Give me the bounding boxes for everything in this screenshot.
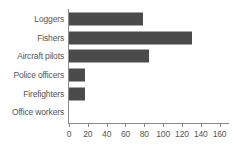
x-tick-mark	[163, 123, 164, 127]
category-label-aircraft-pilots: Aircraft pilots	[17, 51, 64, 61]
category-label-office-workers: Office workers	[12, 107, 64, 117]
bar-row: Firefighters	[0, 84, 234, 103]
x-tick-label: 120	[175, 129, 189, 139]
x-tick-mark	[220, 123, 221, 127]
bar-firefighters	[69, 87, 85, 100]
bar-row: Police officers	[0, 66, 234, 85]
x-tick-label: 20	[83, 129, 92, 139]
bar-aircraft-pilots	[69, 50, 149, 63]
bar-row: Fishers	[0, 29, 234, 48]
x-axis-ticks: 020406080100120140160	[0, 123, 234, 153]
x-tick-mark	[125, 123, 126, 127]
x-tick-mark	[69, 123, 70, 127]
bar-chart: LoggersFishersAircraft pilotsPolice offi…	[0, 0, 234, 160]
x-tick-label: 40	[102, 129, 111, 139]
bar-row: Office workers	[0, 103, 234, 122]
bar-loggers	[69, 13, 143, 26]
x-tick-label: 140	[194, 129, 208, 139]
x-tick-mark	[201, 123, 202, 127]
x-tick-mark	[182, 123, 183, 127]
bar-fishers	[69, 31, 192, 44]
x-tick-mark	[107, 123, 108, 127]
category-label-firefighters: Firefighters	[23, 89, 64, 99]
bar-row: Loggers	[0, 10, 234, 29]
x-tick-mark	[88, 123, 89, 127]
x-tick-mark	[144, 123, 145, 127]
x-tick-label: 100	[156, 129, 170, 139]
bar-police-officers	[69, 69, 85, 82]
x-tick-label: 160	[213, 129, 227, 139]
category-label-police-officers: Police officers	[13, 70, 64, 80]
bar-row: Aircraft pilots	[0, 47, 234, 66]
x-tick-label: 0	[67, 129, 72, 139]
bar-rows: LoggersFishersAircraft pilotsPolice offi…	[0, 10, 234, 122]
category-label-loggers: Loggers	[34, 14, 64, 24]
category-label-fishers: Fishers	[37, 33, 64, 43]
x-tick-label: 80	[140, 129, 149, 139]
x-tick-label: 60	[121, 129, 130, 139]
